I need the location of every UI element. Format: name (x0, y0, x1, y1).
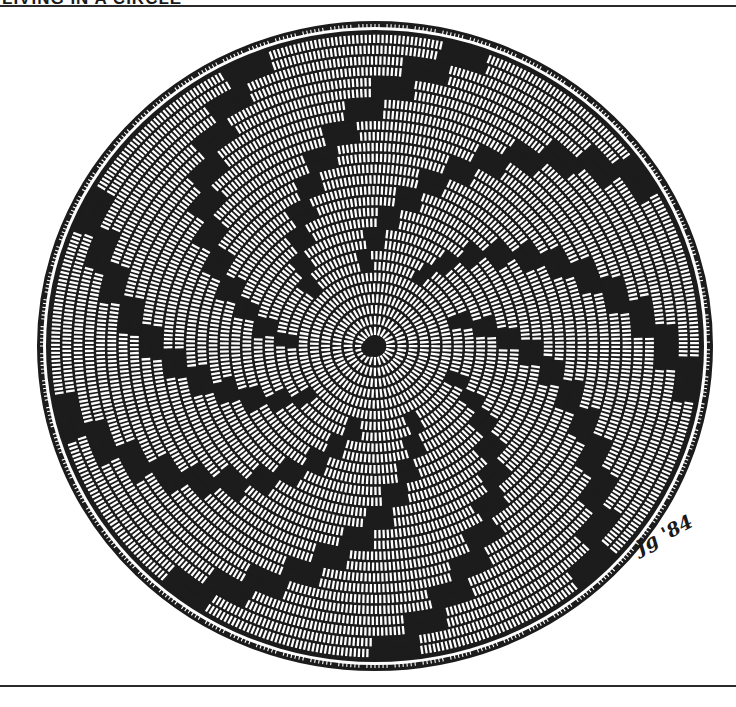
coiled-basket-illustration (0, 0, 736, 707)
bottom-rule-divider (0, 685, 736, 687)
